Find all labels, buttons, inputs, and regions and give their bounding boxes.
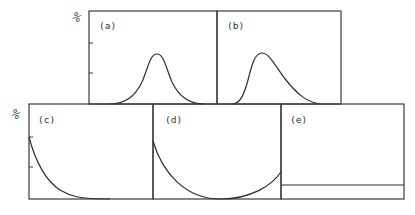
panel-d-label: (d) [165,114,182,125]
panel-c: % (c) [9,104,153,199]
panel-b-curve-skewed [232,53,320,104]
panel-a-label: (a) [99,20,116,31]
panel-d-curve-u-shaped [153,141,281,199]
panel-e-label: (e) [290,114,307,125]
panel-d: (d) [153,104,281,199]
panel-c-percent-label: % [9,107,23,122]
panel-b: (b) [217,11,341,104]
distribution-shapes-diagram: % (a) (b) % (c) (d) (e) [0,0,415,215]
panel-c-label: (c) [38,114,55,125]
panel-c-curve-decreasing [29,137,110,199]
panel-b-label: (b) [227,20,244,31]
panel-a-percent-label: % [70,10,84,25]
panel-a-curve-normal [110,54,204,104]
panel-a: % (a) [70,10,217,104]
panel-e: (e) [281,104,404,199]
